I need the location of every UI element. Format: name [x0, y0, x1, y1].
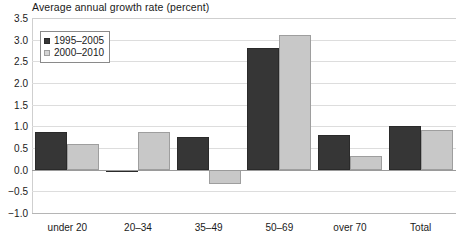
bar [67, 144, 99, 170]
x-axis-label: 35–49 [195, 222, 223, 233]
y-axis-tick-label: 3.5 [14, 13, 28, 24]
gridline-0 [32, 170, 456, 171]
bar [177, 137, 209, 170]
bar [35, 132, 67, 170]
y-axis-tick-label: 1.5 [14, 99, 28, 110]
bar [389, 126, 421, 169]
y-axis-line [32, 18, 33, 213]
legend-label-series-0: 1995–2005 [54, 35, 104, 46]
bar [279, 35, 311, 169]
legend-swatch-icon-series-1 [44, 50, 50, 56]
legend-label-series-1: 2000–2010 [54, 47, 104, 58]
y-axis-tick-label: 2.5 [14, 56, 28, 67]
bar [247, 48, 279, 169]
gridline-1-5 [32, 105, 456, 106]
y-axis-tick-label: 2.0 [14, 78, 28, 89]
x-axis-label: 20–34 [124, 222, 152, 233]
legend-item-0: 1995–2005 [44, 35, 104, 46]
chart-title: Average annual growth rate (percent) [32, 1, 209, 13]
bar [421, 130, 453, 170]
y-axis-tick-label: −1.0 [8, 208, 28, 219]
legend-item-1: 2000–2010 [44, 47, 104, 58]
bar [138, 132, 170, 170]
x-axis-label: 50–69 [265, 222, 293, 233]
y-axis-tick-label: 0.5 [14, 143, 28, 154]
bar [209, 170, 241, 184]
x-axis-label: under 20 [48, 222, 87, 233]
legend-swatch-icon-series-0 [44, 38, 50, 44]
gridline--1 [32, 213, 456, 214]
x-axis-label: Total [410, 222, 431, 233]
bar [318, 135, 350, 170]
y-axis-tick-label: 1.0 [14, 121, 28, 132]
growth-rate-bar-chart: Average annual growth rate (percent) 3.5… [0, 0, 461, 248]
y-axis-tick-label: −0.5 [8, 186, 28, 197]
gridline-3-5 [32, 18, 456, 19]
gridline-2 [32, 83, 456, 84]
chart-legend: 1995–2005 2000–2010 [40, 31, 110, 63]
bar [350, 156, 382, 169]
y-axis-tick-label: 3.0 [14, 34, 28, 45]
gridline--0-5 [32, 191, 456, 192]
x-axis-label: over 70 [333, 222, 366, 233]
y-axis-tick-label: 0.0 [14, 164, 28, 175]
